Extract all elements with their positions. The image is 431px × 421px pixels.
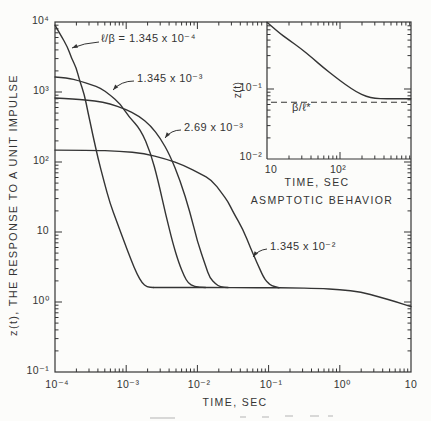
inset-title: ASMPTOTIC BEHAVIOR <box>251 194 394 207</box>
inset-y-tick-label-1e-2: 10⁻² <box>218 150 262 163</box>
inset-asymptote-label: β/ℓ* <box>292 101 311 114</box>
plot-canvas <box>0 0 431 421</box>
x-tick-label-1e-1: 10⁻¹ <box>260 378 282 391</box>
inset-x-axis-title: TIME, SEC <box>284 176 349 189</box>
y-axis-title: z(t), THE RESPONSE TO A UNIT IMPULSE <box>7 74 20 336</box>
y-tick-label-1e-1: 10⁻¹ <box>5 364 49 377</box>
x-tick-label-10: 10 <box>405 378 417 391</box>
inset-y-tick-label-1e-1: 10⁻¹ <box>218 81 262 94</box>
curve-label-1.345e-3: 1.345 x 10⁻³ <box>137 72 203 85</box>
figure: 10⁴ 10³ 10² 10 10⁰ 10⁻¹ 10⁻⁴ 10⁻³ 10⁻² 1… <box>0 0 431 421</box>
curve-label-1.345e-2: 1.345 x 10⁻² <box>270 240 336 253</box>
curve-label-2.69e-3: 2.69 x 10⁻³ <box>184 121 243 134</box>
curve-1 <box>55 25 153 287</box>
inset-x-tick-label-10: 10 <box>265 163 277 176</box>
curve-5 <box>153 288 411 307</box>
inset-curve <box>267 22 411 99</box>
x-tick-label-1e-2: 10⁻² <box>188 378 210 391</box>
leader-arrowhead-2 <box>113 84 118 90</box>
y-tick-label-1e4: 10⁴ <box>5 14 49 27</box>
x-tick-label-1e-3: 10⁻³ <box>117 378 139 391</box>
inset-x-tick-label-1e2: 10² <box>330 163 346 176</box>
x-tick-label-1e0: 10⁰ <box>334 378 351 391</box>
x-tick-label-1e-4: 10⁻⁴ <box>45 378 68 391</box>
cropped-caption-remnant <box>150 416 333 418</box>
x-axis-title: TIME, SEC <box>202 396 267 409</box>
curve-label-1.345e-4: ℓ/β = 1.345 x 10⁻⁴ <box>101 32 196 45</box>
leader-arrowhead-1 <box>72 44 78 48</box>
inset-axes <box>267 22 411 159</box>
